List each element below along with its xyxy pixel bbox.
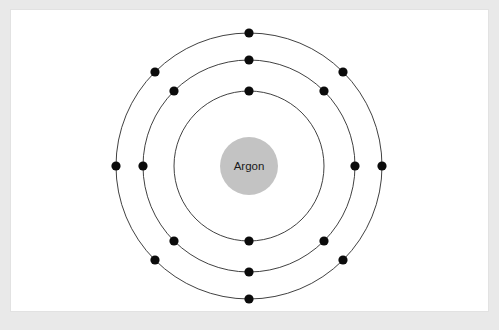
- electron-dot-M-3: [377, 161, 386, 170]
- electron-dot-L-3: [350, 161, 359, 170]
- electron-dot-L-7: [138, 161, 147, 170]
- electron-dot-K-1: [244, 86, 253, 95]
- diagram-panel: Argon: [10, 9, 489, 312]
- electron-dot-L-5: [244, 267, 253, 276]
- electron-dot-M-8: [150, 67, 159, 76]
- electron-dot-M-5: [244, 294, 253, 303]
- electron-dot-L-8: [169, 86, 178, 95]
- electron-dot-M-1: [244, 28, 253, 37]
- electron-dot-M-4: [338, 255, 347, 264]
- figure-root: Argon: [0, 0, 499, 330]
- electron-dot-K-2: [244, 236, 253, 245]
- electron-dot-L-2: [319, 86, 328, 95]
- nucleus-label: Argon: [234, 160, 265, 172]
- nucleus-group: Argon: [220, 137, 278, 195]
- electron-dot-M-7: [111, 161, 120, 170]
- electron-dot-L-1: [244, 55, 253, 64]
- electron-dot-M-6: [150, 255, 159, 264]
- bohr-model-svg: Argon: [11, 10, 488, 311]
- electron-dot-L-4: [319, 236, 328, 245]
- electron-dot-M-2: [338, 67, 347, 76]
- electron-dot-L-6: [169, 236, 178, 245]
